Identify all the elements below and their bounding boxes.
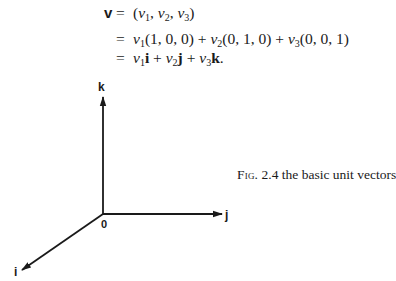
figure-caption: Fig. 2.4 the basic unit vectors [237, 167, 396, 183]
k-axis-label: k [98, 81, 105, 93]
i-axis-arrow [22, 214, 103, 270]
j-axis-label: j [225, 209, 228, 221]
origin-label: 0 [101, 218, 107, 230]
caption-fig-number: 2.4 [262, 167, 279, 182]
caption-text: the basic unit vectors [282, 167, 396, 182]
caption-fig-label: Fig. [237, 167, 258, 182]
i-axis-label: i [14, 266, 17, 278]
